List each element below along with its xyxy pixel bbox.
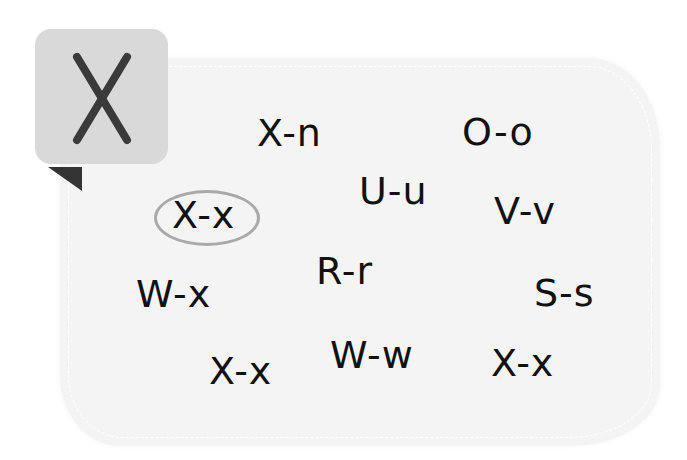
pair-item[interactable]: R-r	[316, 252, 373, 290]
pair-item[interactable]: U-u	[359, 172, 428, 210]
badge-tail	[48, 167, 82, 191]
pair-item[interactable]: X-x	[491, 344, 554, 382]
pair-item[interactable]: X-n	[257, 114, 322, 152]
pair-item[interactable]: O-o	[462, 113, 534, 151]
badge-letter-x	[35, 29, 168, 164]
pair-item[interactable]: W-x	[136, 275, 211, 313]
pair-item[interactable]: V-v	[494, 192, 556, 230]
pair-item[interactable]: S-s	[534, 274, 595, 312]
pair-item[interactable]: X-x	[209, 352, 272, 390]
pair-item-circled[interactable]: X-x	[172, 196, 235, 234]
pair-item[interactable]: W-w	[330, 336, 414, 374]
